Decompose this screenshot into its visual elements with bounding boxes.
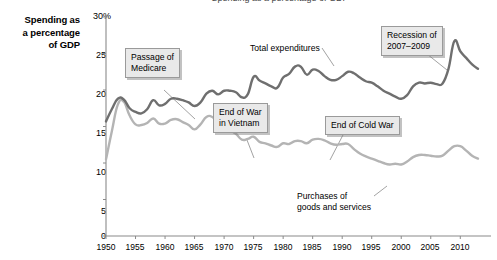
series-label-purchases: Purchases of goods and services [297, 191, 371, 213]
leader-line-vietnam [247, 140, 254, 158]
leader-line-coldwar [330, 133, 344, 160]
callout-coldwar-line1: End of Cold War [331, 120, 394, 131]
callout-vietnam-line2: in Vietnam [219, 118, 262, 129]
leader-line-total [322, 48, 334, 66]
chart-figure: Spending as a percentage of GDP Spending… [0, 0, 497, 260]
callout-recession-2007-2009[interactable]: Recession of 2007–2009 [381, 26, 443, 56]
callout-recession-line2: 2007–2009 [387, 41, 437, 52]
callout-vietnam-line1: End of War [219, 107, 262, 118]
callout-end-of-war-in-vietnam[interactable]: End of War in Vietnam [213, 103, 268, 133]
callout-recession-line1: Recession of [387, 30, 437, 41]
leader-line-purchases [374, 186, 387, 196]
callout-medicare-line1: Passage of [131, 52, 174, 63]
callout-leader-lines [164, 48, 447, 196]
callout-passage-of-medicare[interactable]: Passage of Medicare [125, 48, 180, 78]
series-purchases-line [106, 100, 478, 165]
series-label-purchases-line2: goods and services [297, 202, 371, 213]
callout-end-of-cold-war[interactable]: End of Cold War [325, 116, 400, 135]
callout-medicare-line2: Medicare [131, 63, 174, 74]
series-label-purchases-line1: Purchases of [297, 191, 371, 202]
series-label-total-expenditures: Total expenditures [250, 43, 320, 54]
